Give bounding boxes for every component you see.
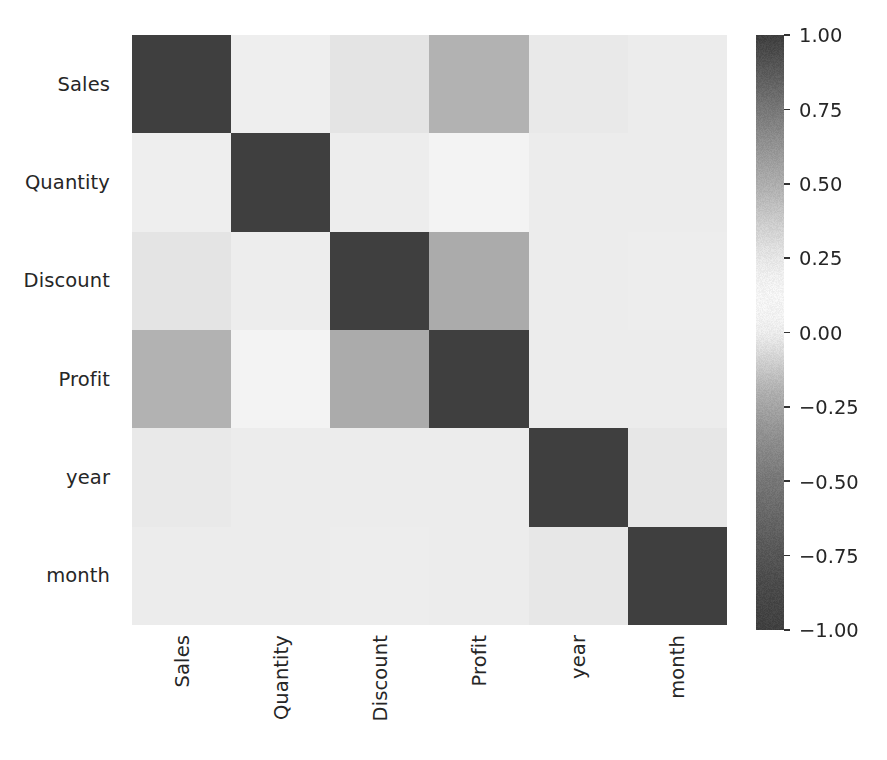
colorbar-tick-mark [784,183,790,185]
heatmap-cell [132,330,231,428]
heatmap-cell [330,527,429,625]
heatmap-cell [628,35,727,133]
heatmap-cell [132,232,231,330]
heatmap-cell [231,35,330,133]
heatmap-cell [429,133,528,231]
y-tick-label: Quantity [0,133,121,231]
colorbar-tick-mark [784,332,790,334]
heatmap-cell [628,330,727,428]
x-tick-label-text: Quantity [269,635,292,720]
heatmap-cell [132,35,231,133]
heatmap-cell [529,35,628,133]
x-tick-label: Sales [132,625,231,755]
y-tick-label: month [0,527,121,625]
heatmap-cell [529,428,628,526]
colorbar-tick-label: −0.50 [799,472,859,492]
heatmap-cell [231,232,330,330]
heatmap-cell-grid [132,35,727,625]
colorbar-tick-label: −1.00 [799,621,859,641]
heatmap-cell [429,428,528,526]
x-tick-label: Discount [330,625,429,755]
colorbar-tick-mark [784,480,790,482]
y-tick-label: year [0,428,121,526]
y-tick-label: Discount [0,232,121,330]
colorbar-tick-mark [784,34,790,36]
colorbar-tick-label: 0.75 [799,100,842,120]
heatmap-cell [231,133,330,231]
x-tick-label-text: Profit [468,635,491,686]
colorbar-tick-label: −0.75 [799,546,859,566]
colorbar-tick-mark [784,109,790,111]
heatmap-cell [132,133,231,231]
heatmap-cell [429,330,528,428]
x-tick-label: year [529,625,628,755]
colorbar-tick-mark [784,629,790,631]
colorbar-tick-label: 0.50 [799,175,842,195]
colorbar-tick-mark [784,257,790,259]
heatmap-cell [429,527,528,625]
heatmap-cell [231,330,330,428]
y-tick-label: Sales [0,35,121,133]
y-axis-tick-labels: SalesQuantityDiscountProfityearmonth [0,35,121,625]
heatmap-cell [529,330,628,428]
heatmap-cell [628,133,727,231]
heatmap-cell [628,428,727,526]
x-tick-label-text: year [567,635,590,679]
heatmap-plot-area [132,35,727,625]
heatmap-cell [529,527,628,625]
heatmap-cell [429,232,528,330]
heatmap-cell [231,428,330,526]
heatmap-cell [628,232,727,330]
heatmap-cell [628,527,727,625]
x-tick-label: Quantity [231,625,330,755]
heatmap-cell [330,133,429,231]
colorbar-tick-label: −0.25 [799,398,859,418]
colorbar-tick-label: 1.00 [799,26,842,46]
heatmap-cell [429,35,528,133]
x-tick-label-text: month [666,635,689,699]
heatmap-cell [132,428,231,526]
heatmap-cell [529,133,628,231]
colorbar-tick-label: 0.00 [799,323,842,343]
heatmap-cell [529,232,628,330]
colorbar-tick-mark [784,406,790,408]
heatmap-cell [330,330,429,428]
x-axis-tick-labels: SalesQuantityDiscountProfityearmonth [132,625,727,755]
x-tick-label: Profit [429,625,528,755]
x-tick-label: month [628,625,727,755]
heatmap-cell [330,428,429,526]
colorbar-tick-label: 0.25 [799,249,842,269]
y-tick-label: Profit [0,330,121,428]
colorbar-tick-mark [784,555,790,557]
colorbar-tick-labels: 1.000.750.500.250.00−0.25−0.50−0.75−1.00 [756,35,886,630]
heatmap-cell [231,527,330,625]
heatmap-cell [330,35,429,133]
heatmap-cell [132,527,231,625]
x-tick-label-text: Discount [368,635,391,721]
correlation-heatmap-figure: SalesQuantityDiscountProfityearmonth Sal… [0,0,887,760]
x-tick-label-text: Sales [170,635,193,687]
heatmap-cell [330,232,429,330]
